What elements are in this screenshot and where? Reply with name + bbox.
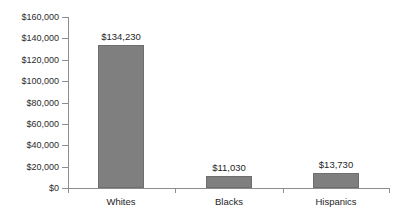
y-axis-tick xyxy=(62,167,68,168)
bar-value-hispanics: $13,730 xyxy=(296,160,376,170)
bar-chart: $160,000 $140,000 $120,000 $100,000 $80,… xyxy=(0,0,406,222)
y-axis-label-0: $0 xyxy=(49,184,59,193)
x-axis-category-blacks: Blacks xyxy=(189,196,269,207)
y-axis-tick xyxy=(62,81,68,82)
bar-value-whites: $134,230 xyxy=(81,32,161,42)
y-axis-tick xyxy=(62,145,68,146)
x-axis-tick xyxy=(175,188,176,193)
bar-whites xyxy=(98,45,144,188)
y-axis-tick xyxy=(62,124,68,125)
y-axis-label-140000: $140,000 xyxy=(21,34,59,43)
x-axis-line xyxy=(68,188,390,189)
y-axis-tick xyxy=(62,38,68,39)
bar-hispanics xyxy=(313,173,359,188)
y-axis-label-160000: $160,000 xyxy=(21,13,59,22)
x-axis-tick xyxy=(283,188,284,193)
x-axis-tick xyxy=(389,188,390,193)
y-axis-tick xyxy=(62,60,68,61)
y-axis-label-100000: $100,000 xyxy=(21,77,59,86)
bar-value-blacks: $11,030 xyxy=(189,163,269,173)
y-axis-label-40000: $40,000 xyxy=(26,141,59,150)
y-axis-line xyxy=(68,17,69,189)
y-axis-label-120000: $120,000 xyxy=(21,56,59,65)
x-axis-category-whites: Whites xyxy=(81,196,161,207)
y-axis-label-80000: $80,000 xyxy=(26,99,59,108)
y-axis-label-60000: $60,000 xyxy=(26,120,59,129)
y-axis-tick xyxy=(62,17,68,18)
y-axis-tick xyxy=(62,103,68,104)
bar-blacks xyxy=(206,176,252,188)
y-axis-label-20000: $20,000 xyxy=(26,163,59,172)
x-axis-category-hispanics: Hispanics xyxy=(296,196,376,207)
x-axis-tick xyxy=(68,188,69,193)
